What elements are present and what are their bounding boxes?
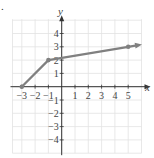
x-tick-label: −2 [30, 90, 41, 101]
y-tick-label: 4 [54, 28, 59, 39]
data-point [20, 84, 25, 89]
x-tick-label: −3 [16, 90, 27, 101]
data-point [46, 58, 51, 63]
coordinate-plane: −3−2−1123454321−1−2−3−4 x y [0, 0, 154, 158]
x-tick-label: 4 [112, 90, 117, 101]
x-axis-label: x [144, 81, 150, 93]
x-tick-label: 2 [86, 90, 91, 101]
y-tick-label: −1 [48, 95, 59, 106]
y-tick-label: −2 [48, 108, 59, 119]
data-point [126, 45, 131, 50]
x-tick-label: 1 [73, 90, 78, 101]
x-tick-label: 5 [126, 90, 131, 101]
x-tick-label: 3 [99, 90, 104, 101]
y-tick-label: −4 [48, 134, 59, 145]
y-tick-label: −3 [48, 121, 59, 132]
y-axis-label: y [57, 5, 63, 17]
y-tick-label: 1 [54, 68, 59, 79]
data-series [20, 43, 143, 89]
y-tick-label: 3 [54, 41, 59, 52]
axes [11, 15, 151, 155]
